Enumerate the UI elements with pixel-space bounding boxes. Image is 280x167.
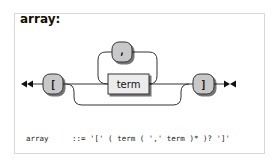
- terminal-separator[interactable]: ,: [112, 42, 132, 62]
- terminal-open-bracket[interactable]: [: [43, 74, 63, 94]
- ebnf-lhs: array: [26, 134, 72, 143]
- nonterminal-term-label: term: [117, 79, 141, 90]
- nonterminal-term[interactable]: term: [108, 74, 149, 94]
- ebnf-rhs: ::= '[' ( term ( ',' term )* )? ']': [72, 134, 230, 143]
- ebnf-definition: array::= '[' ( term ( ',' term )* )? ']': [26, 134, 230, 143]
- terminal-separator-label: ,: [119, 46, 125, 57]
- end-marker-icon: [224, 81, 236, 88]
- start-marker-icon: [21, 81, 33, 88]
- terminal-close-bracket[interactable]: ]: [193, 74, 214, 94]
- terminal-close-label: ]: [200, 79, 206, 90]
- terminal-open-label: [: [50, 79, 56, 90]
